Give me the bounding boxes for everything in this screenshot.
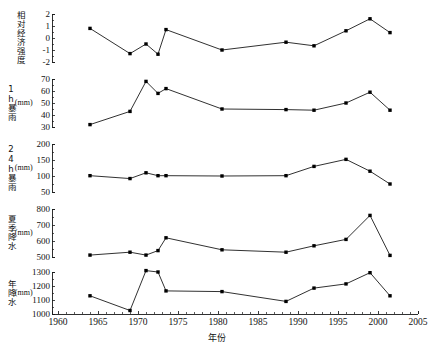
- data-point-1h-rainstorm-2: [144, 80, 147, 83]
- data-point-summer-precipitation-4: [164, 236, 167, 239]
- x-tick-label-1985: 1985: [238, 317, 278, 327]
- y-axis-title-group-summer-precipitation: 夏季降水(mm): [2, 205, 36, 261]
- data-point-annual-precipitation-8: [344, 282, 347, 285]
- x-tick-label-1995: 1995: [318, 317, 358, 327]
- data-point-annual-precipitation-7: [312, 286, 315, 289]
- data-point-summer-precipitation-3: [156, 249, 159, 252]
- data-point-annual-precipitation-3: [156, 270, 159, 273]
- series-line-relative-intensity: [90, 19, 390, 54]
- data-point-summer-precipitation-8: [344, 238, 347, 241]
- data-point-annual-precipitation-1: [128, 309, 131, 312]
- data-point-annual-precipitation-9: [368, 271, 371, 274]
- data-point-24h-rainstorm-7: [312, 165, 315, 168]
- x-tick-label-1990: 1990: [278, 317, 318, 327]
- x-tick-label-2000: 2000: [358, 317, 398, 327]
- data-point-annual-precipitation-5: [220, 290, 223, 293]
- y-axis-title-relative-intensity: 相对经济强度: [14, 11, 24, 65]
- x-tick-label-1975: 1975: [158, 317, 198, 327]
- x-tick-label-1970: 1970: [118, 317, 158, 327]
- data-point-relative-intensity-4: [164, 28, 167, 31]
- data-point-summer-precipitation-6: [284, 251, 287, 254]
- data-point-1h-rainstorm-4: [164, 87, 167, 90]
- data-point-summer-precipitation-1: [128, 251, 131, 254]
- data-point-1h-rainstorm-7: [312, 109, 315, 112]
- data-point-relative-intensity-6: [284, 41, 287, 44]
- data-point-summer-precipitation-10: [388, 254, 391, 257]
- y-axis-title-group-1h-rainstorm: 1h暴雨(mm): [2, 75, 36, 131]
- data-point-24h-rainstorm-8: [344, 158, 347, 161]
- data-point-1h-rainstorm-5: [220, 107, 223, 110]
- data-point-1h-rainstorm-6: [284, 108, 287, 111]
- data-point-1h-rainstorm-0: [88, 123, 91, 126]
- x-tick-label-2005: 2005: [398, 317, 433, 327]
- y-axis-unit-annual-precipitation: (mm): [15, 288, 33, 298]
- data-point-relative-intensity-8: [344, 29, 347, 32]
- series-line-24h-rainstorm: [90, 159, 390, 184]
- data-point-summer-precipitation-7: [312, 244, 315, 247]
- data-point-1h-rainstorm-8: [344, 101, 347, 104]
- series-line-summer-precipitation: [90, 215, 390, 255]
- data-point-relative-intensity-7: [312, 44, 315, 47]
- data-point-24h-rainstorm-4: [164, 174, 167, 177]
- y-axis-title-group-relative-intensity: 相对经济强度: [2, 10, 36, 66]
- data-point-1h-rainstorm-3: [156, 92, 159, 95]
- data-point-annual-precipitation-0: [88, 294, 91, 297]
- data-point-24h-rainstorm-3: [156, 174, 159, 177]
- data-point-24h-rainstorm-10: [388, 182, 391, 185]
- data-point-annual-precipitation-2: [144, 269, 147, 272]
- y-axis-title-group-24h-rainstorm: 24h暴雨(mm): [2, 140, 36, 196]
- data-point-1h-rainstorm-10: [388, 109, 391, 112]
- data-point-relative-intensity-10: [388, 31, 391, 34]
- data-point-24h-rainstorm-0: [88, 174, 91, 177]
- y-axis-title-annual-precipitation: 年降水: [5, 280, 15, 307]
- data-point-24h-rainstorm-5: [220, 174, 223, 177]
- y-axis-title-24h-rainstorm: 24h暴雨: [5, 144, 15, 192]
- multi-panel-time-series-figure: -2-1012304050607050100150200500600700800…: [0, 0, 433, 350]
- data-point-relative-intensity-5: [220, 48, 223, 51]
- data-point-relative-intensity-9: [368, 17, 371, 20]
- y-axis-title-1h-rainstorm: 1h暴雨: [5, 84, 15, 122]
- data-point-relative-intensity-3: [156, 53, 159, 56]
- data-point-summer-precipitation-2: [144, 253, 147, 256]
- data-point-summer-precipitation-0: [88, 253, 91, 256]
- series-line-annual-precipitation: [90, 271, 390, 311]
- data-point-24h-rainstorm-9: [368, 170, 371, 173]
- x-tick-label-1960: 1960: [38, 317, 78, 327]
- data-point-24h-rainstorm-1: [128, 177, 131, 180]
- x-axis-title: 年份: [0, 331, 433, 344]
- x-tick-label-1965: 1965: [78, 317, 118, 327]
- data-point-relative-intensity-2: [144, 42, 147, 45]
- data-point-relative-intensity-0: [88, 27, 91, 30]
- data-point-24h-rainstorm-6: [284, 174, 287, 177]
- data-point-relative-intensity-1: [128, 52, 131, 55]
- x-tick-label-1980: 1980: [198, 317, 238, 327]
- data-point-annual-precipitation-6: [284, 300, 287, 303]
- data-point-annual-precipitation-4: [164, 289, 167, 292]
- y-axis-unit-24h-rainstorm: (mm): [15, 163, 33, 173]
- y-axis-unit-summer-precipitation: (mm): [15, 228, 33, 238]
- y-axis-title-group-annual-precipitation: 年降水(mm): [2, 268, 36, 318]
- y-axis-title-summer-precipitation: 夏季降水: [5, 215, 15, 251]
- data-point-24h-rainstorm-2: [144, 171, 147, 174]
- data-point-summer-precipitation-9: [368, 214, 371, 217]
- figure-canvas: [0, 0, 433, 350]
- data-point-1h-rainstorm-1: [128, 110, 131, 113]
- data-point-summer-precipitation-5: [220, 248, 223, 251]
- y-axis-unit-1h-rainstorm: (mm): [15, 98, 33, 108]
- data-point-1h-rainstorm-9: [368, 91, 371, 94]
- data-point-annual-precipitation-10: [388, 294, 391, 297]
